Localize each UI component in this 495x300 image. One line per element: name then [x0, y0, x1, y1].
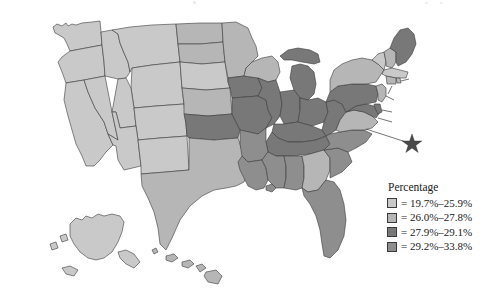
- state-IA[interactable]: [228, 76, 262, 98]
- state-OH[interactable]: [298, 98, 328, 126]
- state-IN[interactable]: [280, 90, 300, 124]
- state-HI[interactable]: [152, 248, 222, 284]
- state-ND[interactable]: [176, 23, 223, 44]
- state-NE[interactable]: [180, 62, 230, 90]
- state-RI[interactable]: [396, 78, 401, 83]
- state-NM[interactable]: [138, 136, 189, 174]
- state-NJ[interactable]: [376, 84, 386, 102]
- us-map: [0, 0, 495, 300]
- legend-row[interactable]: = 29.2%–33.8%: [387, 240, 491, 255]
- state-FL[interactable]: [302, 180, 346, 258]
- legend-row[interactable]: = 26.0%–27.8%: [387, 211, 491, 226]
- legend-label-2: = 26.0%–27.8%: [401, 211, 472, 224]
- legend-label-4: = 29.2%–33.8%: [401, 240, 472, 253]
- legend-title: Percentage: [388, 180, 491, 194]
- leader-line-md: [378, 118, 392, 122]
- dc-star-marker[interactable]: [402, 134, 422, 152]
- legend-label-3: = 27.9%–29.1%: [401, 226, 472, 239]
- map-legend: Percentage = 19.7%–25.9% = 26.0%–27.8% =…: [387, 180, 491, 254]
- state-AR[interactable]: [240, 128, 268, 162]
- state-OK[interactable]: [184, 114, 240, 140]
- state-AK[interactable]: [50, 214, 140, 276]
- leader-line-de: [382, 110, 392, 112]
- legend-swatch-3: [387, 227, 397, 237]
- legend-swatch-1: [387, 198, 397, 208]
- leader-line-ri: [401, 79, 409, 81]
- legend-row[interactable]: = 27.9%–29.1%: [387, 225, 491, 240]
- state-SD[interactable]: [178, 42, 225, 64]
- leader-line-ct: [388, 86, 392, 94]
- leader-line-nj: [386, 96, 394, 100]
- state-KS[interactable]: [182, 88, 232, 116]
- legend-swatch-2: [387, 213, 397, 223]
- legend-swatch-4: [387, 242, 397, 252]
- legend-label-1: = 19.7%–25.9%: [401, 197, 472, 210]
- state-WY[interactable]: [131, 62, 184, 108]
- state-AL[interactable]: [284, 156, 304, 190]
- legend-row[interactable]: = 19.7%–25.9%: [387, 196, 491, 211]
- choropleth-figure: Percentage = 19.7%–25.9% = 26.0%–27.8% =…: [0, 0, 495, 300]
- state-CO[interactable]: [134, 104, 187, 140]
- leader-line-dc: [366, 129, 406, 142]
